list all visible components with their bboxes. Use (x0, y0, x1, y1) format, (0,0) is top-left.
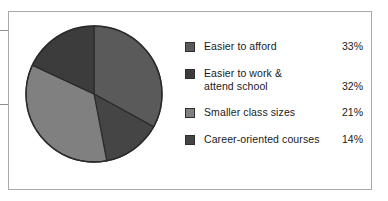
legend-swatch-icon (185, 108, 195, 118)
legend-item-label-line1: Easier to work & (204, 67, 282, 79)
legend-swatch-icon (185, 42, 195, 52)
pie-chart (23, 21, 165, 175)
chart-panel: Easier to afford 33% Easier to work & at… (8, 11, 372, 190)
legend-item-label: Easier to work & attend school (195, 67, 333, 93)
legend-item-value: 33% (333, 40, 363, 53)
legend-swatch-icon (185, 69, 195, 79)
legend-item[interactable]: Easier to afford 33% (185, 40, 363, 54)
chart-legend: Easier to afford 33% Easier to work & at… (185, 40, 363, 147)
legend-item-label: Smaller class sizes (195, 106, 333, 119)
legend-item[interactable]: Career-oriented courses 14% (185, 133, 363, 147)
legend-item-value: 21% (333, 106, 363, 119)
legend-item-value: 32% (333, 80, 363, 93)
legend-swatch-icon (185, 135, 195, 145)
legend-item[interactable]: Smaller class sizes 21% (185, 106, 363, 120)
legend-item-label: Easier to afford (195, 40, 333, 53)
chart-page: Easier to afford 33% Easier to work & at… (0, 0, 388, 201)
legend-item-label: Career-oriented courses (195, 133, 333, 146)
legend-item-value: 14% (333, 133, 363, 146)
legend-item-label-line2: attend school (204, 80, 333, 93)
pie-chart-svg (23, 21, 165, 175)
legend-item[interactable]: Easier to work & attend school 32% (185, 67, 363, 93)
